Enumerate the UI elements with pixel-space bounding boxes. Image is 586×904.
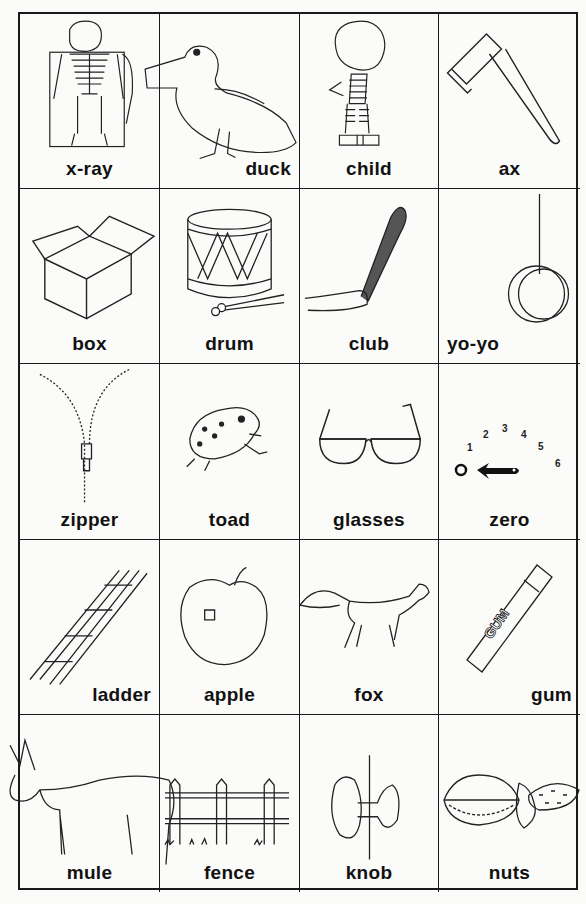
word-label: ladder xyxy=(20,684,151,706)
card-mule: mule xyxy=(20,715,160,892)
glasses-icon xyxy=(300,364,438,504)
ladder-icon xyxy=(20,540,159,680)
gum-icon: GUM xyxy=(439,540,580,680)
word-label: drum xyxy=(160,333,299,355)
word-label: glasses xyxy=(300,509,438,531)
skeleton-xray-icon xyxy=(20,14,159,154)
card-child: child xyxy=(300,14,439,189)
knob-icon xyxy=(300,715,438,855)
word-label: child xyxy=(300,158,438,180)
svg-text:1: 1 xyxy=(467,442,473,453)
word-label: x-ray xyxy=(20,158,159,180)
duck-icon xyxy=(160,14,299,154)
card-glasses: glasses xyxy=(300,364,439,540)
svg-text:6: 6 xyxy=(555,458,561,469)
card-toad: toad xyxy=(160,364,300,540)
picture-word-grid: x-ray duck child xyxy=(18,12,578,890)
card-drum: drum xyxy=(160,189,300,364)
fence-icon xyxy=(160,715,299,855)
word-label: knob xyxy=(300,862,438,884)
card-gum: GUM gum xyxy=(439,540,580,715)
card-nuts: nuts xyxy=(439,715,580,892)
box-icon xyxy=(20,189,159,329)
fox-icon xyxy=(300,540,438,680)
toad-icon xyxy=(160,364,299,504)
card-knob: knob xyxy=(300,715,439,892)
word-label: ax xyxy=(439,158,580,180)
card-fox: fox xyxy=(300,540,439,715)
word-label: toad xyxy=(160,509,299,531)
word-label: club xyxy=(300,333,438,355)
card-x-ray: x-ray xyxy=(20,14,160,189)
svg-text:4: 4 xyxy=(521,429,527,440)
drum-icon xyxy=(160,189,299,329)
svg-text:GUM: GUM xyxy=(480,606,512,642)
word-label: nuts xyxy=(439,862,580,884)
word-label: yo-yo xyxy=(447,333,580,355)
club-icon xyxy=(300,189,438,329)
word-label: gum xyxy=(439,684,572,706)
card-club: club xyxy=(300,189,439,364)
ax-icon xyxy=(439,14,580,154)
yoyo-icon xyxy=(439,189,580,329)
word-label: apple xyxy=(160,684,299,706)
card-duck: duck xyxy=(160,14,300,189)
nuts-icon xyxy=(439,715,580,855)
zipper-icon xyxy=(20,364,159,504)
svg-text:2: 2 xyxy=(483,429,489,440)
card-zipper: zipper xyxy=(20,364,160,540)
word-label: mule xyxy=(20,862,159,884)
card-ladder: ladder xyxy=(20,540,160,715)
dial-zero-icon: 1 2 3 4 5 6 xyxy=(439,364,580,504)
word-label: fence xyxy=(160,862,299,884)
word-label: box xyxy=(20,333,159,355)
apple-icon xyxy=(160,540,299,680)
card-box: box xyxy=(20,189,160,364)
card-yo-yo: yo-yo xyxy=(439,189,580,364)
card-zero: 1 2 3 4 5 6 zero xyxy=(439,364,580,540)
word-label: duck xyxy=(160,158,291,180)
svg-text:5: 5 xyxy=(538,441,544,452)
word-label: fox xyxy=(300,684,438,706)
child-icon xyxy=(300,14,438,154)
word-label: zero xyxy=(439,509,580,531)
card-apple: apple xyxy=(160,540,300,715)
card-ax: ax xyxy=(439,14,580,189)
word-label: zipper xyxy=(20,509,159,531)
mule-icon xyxy=(20,715,159,855)
svg-text:3: 3 xyxy=(502,423,508,434)
card-fence: fence xyxy=(160,715,300,892)
